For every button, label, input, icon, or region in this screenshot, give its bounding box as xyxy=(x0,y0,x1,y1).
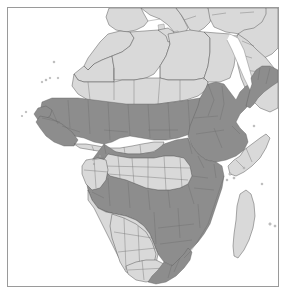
canary-island-1 xyxy=(45,79,47,81)
map-frame xyxy=(7,7,279,287)
canary-island-4 xyxy=(57,77,59,79)
congo-basin-light-interior xyxy=(82,154,192,190)
comoros-island-3 xyxy=(226,179,228,181)
reunion-island xyxy=(269,223,271,225)
seychelles-island xyxy=(261,183,263,185)
mauritius-island xyxy=(274,225,276,227)
sao-tome-island xyxy=(93,163,94,164)
cape-verde-island-1 xyxy=(25,111,27,113)
distribution-map-svg xyxy=(8,8,278,286)
madeira-island xyxy=(53,61,55,63)
socotra-island xyxy=(253,125,255,127)
aldabra-island xyxy=(243,167,245,169)
cape-verde-island-2 xyxy=(21,115,22,116)
bioko-island xyxy=(99,155,101,157)
comoros-island-2 xyxy=(233,177,235,179)
canary-island-3 xyxy=(41,81,43,83)
map-figure xyxy=(0,0,286,297)
canary-island-2 xyxy=(49,77,51,79)
comoros-island-1 xyxy=(229,173,231,175)
